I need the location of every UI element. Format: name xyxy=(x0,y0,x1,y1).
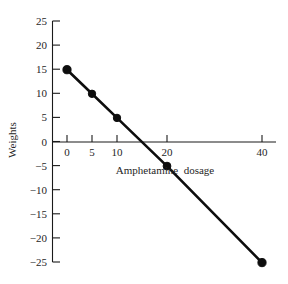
y-tick-label: −10 xyxy=(30,184,48,196)
data-point xyxy=(258,259,266,267)
y-tick-label: 5 xyxy=(42,111,48,123)
x-tick-label: 5 xyxy=(89,146,95,158)
y-axis-tick-labels: 25 20 15 10 5 0 −5 −10 −15 −20 −25 xyxy=(30,15,48,268)
x-tick-label: 20 xyxy=(162,146,174,158)
x-tick-label: 10 xyxy=(112,146,124,158)
x-tick-label: 40 xyxy=(257,146,269,158)
line-chart-plot: 25 20 15 10 5 0 −5 −10 −15 −20 −25 0 5 1… xyxy=(0,0,288,284)
y-axis-title: Weights xyxy=(6,122,18,158)
data-point xyxy=(113,114,120,121)
data-point xyxy=(63,66,71,74)
x-axis-ticks xyxy=(67,135,262,142)
y-tick-label: −25 xyxy=(30,256,48,268)
y-tick-label: −5 xyxy=(35,160,47,172)
data-point xyxy=(88,90,95,97)
x-axis-title: Amphetamine dosage xyxy=(116,164,214,176)
x-axis-tick-labels: 0 5 10 20 40 xyxy=(64,146,268,158)
y-tick-label: 20 xyxy=(36,39,48,51)
y-tick-label: 15 xyxy=(36,63,48,75)
chart-figure: 25 20 15 10 5 0 −5 −10 −15 −20 −25 0 5 1… xyxy=(0,0,288,284)
y-tick-label: 0 xyxy=(42,136,48,148)
y-tick-label: 10 xyxy=(36,87,48,99)
y-axis-ticks xyxy=(53,21,61,262)
y-tick-label: −20 xyxy=(30,232,48,244)
y-tick-label: −15 xyxy=(30,208,48,220)
y-tick-label: 25 xyxy=(36,15,48,27)
x-tick-label: 0 xyxy=(64,146,70,158)
